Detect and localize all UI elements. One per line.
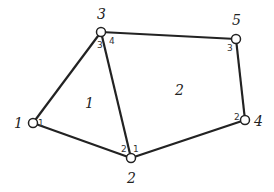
edge-3-2 bbox=[101, 32, 131, 158]
node-4 bbox=[241, 116, 250, 125]
mesh-diagram: 12345121213432 bbox=[0, 0, 274, 192]
node-label-3: 3 bbox=[97, 6, 106, 22]
local-index-label: 2 bbox=[234, 112, 240, 122]
node-3 bbox=[97, 28, 106, 37]
element-label-1: 1 bbox=[85, 95, 94, 111]
nodes bbox=[29, 28, 250, 163]
local-index-label: 3 bbox=[227, 43, 233, 53]
node-label-2: 2 bbox=[126, 170, 136, 186]
edges bbox=[33, 32, 245, 158]
node-5 bbox=[232, 35, 241, 44]
local-index-label: 4 bbox=[109, 36, 115, 46]
element-label-2: 2 bbox=[174, 82, 184, 98]
node-label-4: 4 bbox=[253, 113, 263, 129]
edge-1-2 bbox=[33, 123, 131, 158]
edge-5-4 bbox=[236, 39, 245, 120]
node-2 bbox=[127, 154, 136, 163]
local-index-label: 1 bbox=[133, 144, 139, 154]
edge-3-5 bbox=[101, 32, 236, 39]
node-label-5: 5 bbox=[232, 12, 241, 28]
local-index-label: 1 bbox=[38, 118, 44, 128]
node-1 bbox=[29, 119, 38, 128]
edge-4-2 bbox=[131, 120, 245, 158]
node-label-1: 1 bbox=[14, 115, 23, 131]
local-index-label: 2 bbox=[121, 144, 127, 154]
local-index-label: 3 bbox=[97, 40, 103, 50]
